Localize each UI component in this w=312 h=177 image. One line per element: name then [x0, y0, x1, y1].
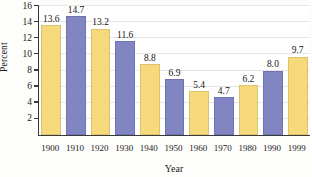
- bar-value-label: 8.0: [267, 60, 279, 70]
- bar-value-label: 14.7: [68, 6, 85, 16]
- bar-slot: 8.0: [263, 6, 283, 135]
- y-axis-tick-label: 4: [27, 98, 32, 108]
- x-axis-tick-label: 1980: [238, 144, 256, 153]
- bar-slot: 6.9: [165, 6, 185, 135]
- x-axis-tick-label: 1910: [66, 144, 84, 153]
- bar-slot: 9.7: [288, 6, 308, 135]
- bar[interactable]: [140, 64, 160, 135]
- x-axis-tick-label: 1960: [189, 144, 207, 153]
- bar-slot: 11.6: [115, 6, 135, 135]
- bar-value-label: 4.7: [218, 87, 230, 97]
- x-axis-tick-label: 1940: [140, 144, 158, 153]
- bar-value-label: 11.6: [117, 31, 133, 41]
- bar-slot: 14.7: [66, 6, 86, 135]
- bar-value-label: 6.9: [169, 69, 181, 79]
- bar[interactable]: [66, 16, 86, 135]
- y-axis-tick-label: 16: [23, 1, 33, 11]
- x-axis-tick-label: 1999: [288, 144, 306, 153]
- x-axis-tick-label: 1930: [115, 144, 133, 153]
- y-axis-tick-label: 10: [23, 50, 33, 60]
- x-axis-tick-label: 1970: [214, 144, 232, 153]
- bar[interactable]: [239, 85, 259, 135]
- x-axis-tick-labels: 1900191019201930194019501960197019801990…: [38, 144, 310, 157]
- bar-slot: 8.8: [140, 6, 160, 135]
- y-axis-tick-label: 14: [23, 17, 33, 27]
- bar[interactable]: [165, 79, 185, 135]
- x-axis-title: Year: [38, 163, 310, 174]
- bar[interactable]: [214, 97, 234, 135]
- y-axis-tick-label: 2: [27, 114, 32, 124]
- bar[interactable]: [115, 41, 135, 135]
- y-axis-title: Percent: [0, 42, 9, 72]
- x-axis-tick-label: 1920: [91, 144, 109, 153]
- bar-slot: 13.6: [41, 6, 61, 135]
- bar-value-label: 13.6: [43, 15, 60, 25]
- bar-value-label: 13.2: [92, 18, 109, 28]
- x-axis-tick-label: 1900: [41, 144, 59, 153]
- bar-slot: 13.2: [91, 6, 111, 135]
- bar-value-label: 6.2: [242, 75, 254, 85]
- bar[interactable]: [263, 71, 283, 136]
- bar[interactable]: [91, 29, 111, 135]
- bar[interactable]: [189, 91, 209, 135]
- bar[interactable]: [288, 57, 308, 135]
- bar-value-label: 8.8: [144, 54, 156, 64]
- bar-series: 13.614.713.211.68.86.95.44.76.28.09.7: [39, 6, 310, 135]
- y-axis-tick-label: 8: [27, 66, 32, 76]
- y-axis-tick-label: 6: [27, 82, 32, 92]
- x-axis-tick-label: 1950: [165, 144, 183, 153]
- bar-value-label: 5.4: [193, 81, 205, 91]
- plot-area: 246810121416 13.614.713.211.68.86.95.44.…: [38, 6, 310, 136]
- y-axis-tick-label: 12: [23, 34, 33, 44]
- bar-slot: 4.7: [214, 6, 234, 135]
- bar-slot: 6.2: [239, 6, 259, 135]
- bar-chart: Percent 246810121416 13.614.713.211.68.8…: [0, 0, 312, 177]
- bar[interactable]: [41, 25, 61, 135]
- x-axis-tick-label: 1990: [263, 144, 281, 153]
- bar-value-label: 9.7: [292, 46, 304, 56]
- bar-slot: 5.4: [189, 6, 209, 135]
